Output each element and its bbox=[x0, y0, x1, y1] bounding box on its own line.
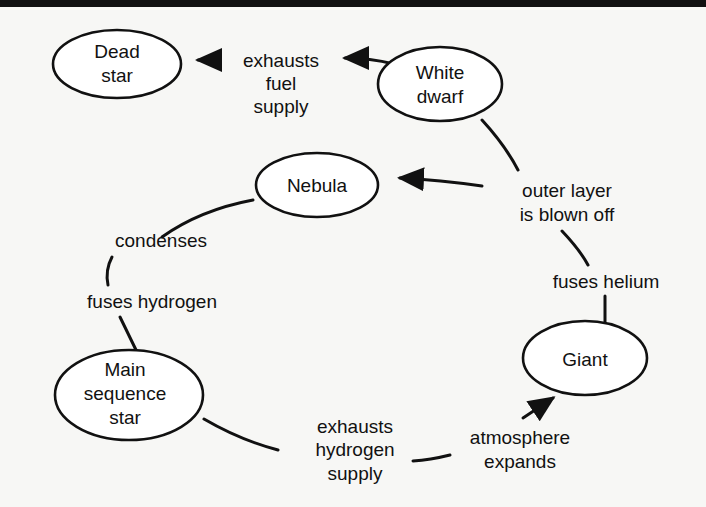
line-main-exhausts bbox=[204, 419, 278, 450]
node-dead-star: Dead star bbox=[53, 30, 181, 98]
svg-text:dwarf: dwarf bbox=[417, 86, 464, 107]
svg-text:outer layer: outer layer bbox=[522, 180, 612, 201]
line-exhausts-atmosphere bbox=[413, 455, 450, 461]
arrow-to-nebula bbox=[400, 178, 482, 186]
line-hydrogen-main bbox=[120, 317, 137, 352]
svg-text:star: star bbox=[109, 407, 141, 428]
svg-text:exhausts: exhausts bbox=[317, 416, 393, 437]
svg-text:Nebula: Nebula bbox=[287, 175, 348, 196]
svg-text:supply: supply bbox=[328, 463, 383, 484]
svg-text:Giant: Giant bbox=[562, 349, 608, 370]
svg-text:fuel: fuel bbox=[266, 73, 297, 94]
arrow-from-white-dwarf bbox=[345, 58, 394, 64]
node-main-sequence-star: Main sequence star bbox=[55, 350, 203, 440]
svg-text:star: star bbox=[101, 65, 133, 86]
label-atmosphere-expands: atmosphere expands bbox=[470, 427, 570, 472]
star-lifecycle-diagram: Dead star White dwarf Nebula Main sequen… bbox=[0, 0, 706, 507]
arrow-to-giant bbox=[523, 398, 553, 418]
svg-text:supply: supply bbox=[254, 96, 309, 117]
line-condenses-hydrogen bbox=[107, 257, 112, 285]
svg-text:is blown off: is blown off bbox=[520, 204, 615, 225]
node-white-dwarf: White dwarf bbox=[378, 47, 502, 121]
label-exhausts-hydrogen-supply: exhausts hydrogen supply bbox=[315, 416, 394, 484]
line-white-dwarf-outer bbox=[482, 120, 518, 170]
svg-text:White: White bbox=[416, 62, 465, 83]
label-exhausts-fuel-supply: exhausts fuel supply bbox=[243, 50, 319, 117]
svg-text:Dead: Dead bbox=[94, 41, 139, 62]
svg-text:atmosphere: atmosphere bbox=[470, 427, 570, 448]
label-condenses: condenses bbox=[115, 230, 207, 251]
svg-text:exhausts: exhausts bbox=[243, 50, 319, 71]
label-fuses-hydrogen: fuses hydrogen bbox=[87, 291, 217, 312]
label-outer-layer-blown-off: outer layer is blown off bbox=[520, 180, 615, 225]
svg-text:sequence: sequence bbox=[84, 383, 166, 404]
line-outer-helium bbox=[562, 231, 588, 265]
svg-text:hydrogen: hydrogen bbox=[315, 439, 394, 460]
label-fuses-helium: fuses helium bbox=[553, 271, 660, 292]
node-giant: Giant bbox=[523, 321, 647, 395]
svg-text:expands: expands bbox=[484, 451, 556, 472]
node-nebula: Nebula bbox=[256, 153, 378, 217]
svg-text:Main: Main bbox=[104, 359, 145, 380]
